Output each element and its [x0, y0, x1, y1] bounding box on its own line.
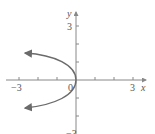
x-axis-label: x [141, 83, 145, 93]
x-min-label: −3 [11, 83, 22, 93]
graph-canvas [0, 0, 155, 134]
parabola-curve [25, 53, 76, 80]
y-max-label: 3 [67, 22, 72, 32]
y-min-label: −3 [66, 129, 77, 134]
y-axis-label: y [67, 9, 71, 19]
origin-label: 0 [68, 83, 73, 93]
x-max-label: 3 [130, 83, 135, 93]
